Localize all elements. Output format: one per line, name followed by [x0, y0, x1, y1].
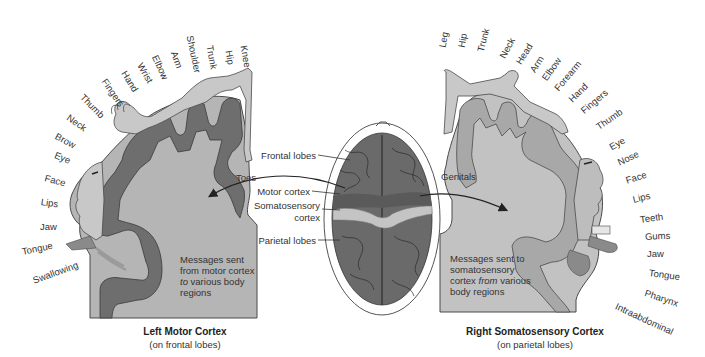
right-caption-subtitle: (on parietal lobes) — [440, 339, 630, 350]
left-body-label: Jaw — [40, 221, 57, 232]
right-message-line: body regions — [450, 286, 531, 297]
label-frontal-lobes: Frontal lobes — [252, 150, 316, 161]
label-parietal-lobes: Parietal lobes — [248, 235, 316, 246]
right-message-line: cortex from various — [450, 275, 531, 286]
left-message: Messages sent from motor cortex to vario… — [180, 254, 254, 298]
right-body-label: Genitals — [441, 171, 476, 182]
right-caption-title: Right Somatosensory Cortex — [440, 326, 630, 337]
right-body-label: Jaw — [647, 248, 664, 259]
left-message-line: regions — [180, 287, 254, 298]
left-caption-subtitle: (on frontal lobes) — [100, 339, 270, 350]
label-somatosensory: Somatosensory — [240, 200, 320, 211]
brain-figure — [0, 0, 705, 357]
italic-word: from — [479, 275, 498, 286]
left-caption-title: Left Motor Cortex — [100, 326, 270, 337]
right-message-line: somatosensory — [450, 264, 531, 275]
left-body-label: Hip — [224, 50, 237, 66]
left-message-line: from motor cortex — [180, 265, 254, 276]
top-view-brain — [324, 122, 440, 315]
italic-word: to — [180, 276, 188, 287]
right-message-line: Messages sent to — [450, 253, 531, 264]
left-message-line: Messages sent — [180, 254, 254, 265]
label-motor-cortex: Motor cortex — [244, 186, 310, 197]
label-somatosensory-cortex: cortex — [240, 212, 320, 223]
right-message-post: various — [498, 275, 531, 286]
right-message: Messages sent to somatosensory cortex fr… — [450, 253, 531, 297]
left-body-label: Lips — [40, 196, 59, 209]
left-body-label: Toes — [236, 172, 256, 183]
left-message-line: to various body — [180, 276, 254, 287]
left-message-rest: various body — [188, 276, 245, 287]
right-message-pre: cortex — [450, 275, 479, 286]
right-body-label: Gums — [645, 230, 671, 242]
